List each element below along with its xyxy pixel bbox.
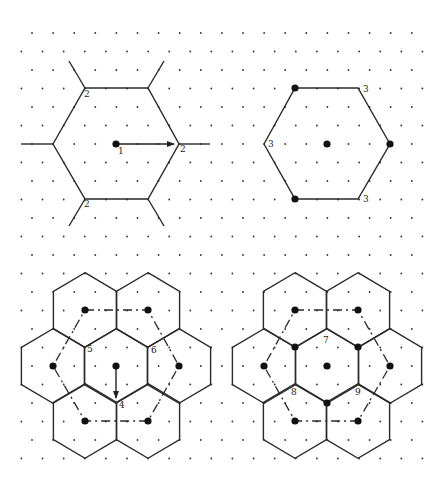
grid-dot: [116, 106, 118, 108]
grid-dot: [305, 217, 307, 219]
grid-dot: [210, 162, 212, 164]
grid-dot: [189, 458, 191, 460]
grid-dot: [295, 125, 297, 127]
grid-dot: [105, 51, 107, 53]
grid-dot: [305, 328, 307, 330]
grid-dot: [52, 32, 54, 34]
site-label: 2: [180, 144, 186, 154]
grid-dot: [31, 217, 33, 219]
grid-dot: [348, 180, 350, 182]
grid-dot: [73, 328, 75, 330]
grid-dot: [274, 310, 276, 312]
grid-dot: [116, 69, 118, 71]
grid-dot: [63, 310, 65, 312]
grid-dot: [31, 439, 33, 441]
grid-dot: [242, 439, 244, 441]
grid-dot: [94, 180, 96, 182]
grid-dot: [400, 125, 402, 127]
grid-dot: [411, 365, 413, 367]
grid-dot: [411, 439, 413, 441]
grid-dot: [210, 458, 212, 460]
grid-dot: [21, 310, 23, 312]
grid-dot: [242, 328, 244, 330]
grid-dot: [63, 421, 65, 423]
grid-dot: [390, 254, 392, 256]
grid-dot: [379, 421, 381, 423]
panel-bottom-left: 564: [21, 273, 210, 459]
grid-dot: [221, 254, 223, 256]
grid-dot: [168, 273, 170, 275]
site-label: 8: [291, 387, 297, 397]
grid-dot: [390, 180, 392, 182]
grid-dot: [52, 69, 54, 71]
grid-dot: [94, 32, 96, 34]
grid-dot: [94, 328, 96, 330]
grid-dot: [284, 291, 286, 293]
grid-dot: [168, 458, 170, 460]
grid-dot: [42, 236, 44, 238]
grid-dot: [84, 125, 86, 127]
grid-dot: [52, 217, 54, 219]
grid-dot: [390, 106, 392, 108]
grid-dot: [232, 236, 234, 238]
grid-dot: [21, 236, 23, 238]
lattice-site-dot: [354, 417, 361, 424]
grid-dot: [337, 273, 339, 275]
grid-dot: [411, 143, 413, 145]
grid-dot: [400, 384, 402, 386]
grid-dot: [369, 143, 371, 145]
grid-dot: [84, 162, 86, 164]
grid-dot: [168, 310, 170, 312]
grid-dot: [379, 199, 381, 201]
grid-dot: [295, 51, 297, 53]
grid-dot: [274, 458, 276, 460]
grid-dot: [210, 88, 212, 90]
grid-dot: [263, 217, 265, 219]
grid-dot: [305, 106, 307, 108]
grid-dot: [126, 51, 128, 53]
grid-dot: [369, 254, 371, 256]
grid-dot: [327, 69, 329, 71]
grid-dot: [327, 217, 329, 219]
grid-dot: [316, 125, 318, 127]
grid-dot: [348, 217, 350, 219]
grid-dot: [21, 458, 23, 460]
grid-dot: [94, 291, 96, 293]
grid-dot: [73, 254, 75, 256]
site-label: 2: [84, 199, 90, 209]
grid-dot: [411, 291, 413, 293]
grid-dot: [232, 273, 234, 275]
grid-dot: [179, 254, 181, 256]
grid-dot: [411, 402, 413, 404]
grid-dot: [253, 421, 255, 423]
grid-dot: [379, 273, 381, 275]
grid-dot: [105, 236, 107, 238]
grid-dot: [42, 421, 44, 423]
grid-dot: [21, 162, 23, 164]
grid-dot: [348, 254, 350, 256]
site-label: 1: [118, 146, 124, 156]
grid-dot: [232, 421, 234, 423]
grid-dot: [274, 199, 276, 201]
grid-dot: [305, 291, 307, 293]
grid-dot: [179, 106, 181, 108]
grid-dot: [84, 236, 86, 238]
grid-dot: [94, 106, 96, 108]
grid-dot: [253, 384, 255, 386]
diagram-svg: 1222333564789: [0, 0, 445, 497]
grid-dot: [126, 458, 128, 460]
grid-dot: [232, 310, 234, 312]
grid-dot: [232, 199, 234, 201]
grid-dot: [221, 439, 223, 441]
grid-dot: [284, 365, 286, 367]
grid-dot: [400, 458, 402, 460]
grid-dot: [158, 32, 160, 34]
grid-dot: [210, 310, 212, 312]
grid-dot: [253, 199, 255, 201]
grid-dot: [337, 458, 339, 460]
grid-dot: [242, 291, 244, 293]
grid-dot: [105, 347, 107, 349]
grid-dot: [253, 51, 255, 53]
grid-dot: [210, 199, 212, 201]
grid-dot: [31, 402, 33, 404]
